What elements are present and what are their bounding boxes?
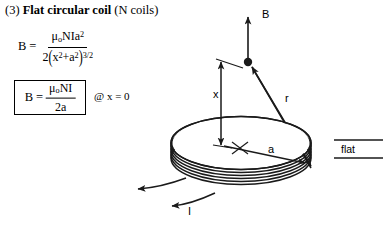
label-distance-r: r [285, 92, 289, 104]
label-current-I: I [188, 205, 191, 217]
axis-tick-mark [216, 59, 243, 68]
coil-top-face [173, 118, 310, 169]
label-magnetic-field: B [262, 8, 269, 20]
physics-diagram-page: (3) Flat circular coil (N coils) B = μoN… [0, 0, 387, 226]
label-radius-a: a [268, 143, 274, 155]
label-flat: flat [341, 143, 355, 155]
lead-wire-upper [138, 178, 186, 189]
field-point-dot [244, 58, 252, 66]
lead-wire-lower [172, 193, 215, 206]
label-distance-x: x [213, 88, 219, 100]
coil-diagram [0, 0, 387, 226]
